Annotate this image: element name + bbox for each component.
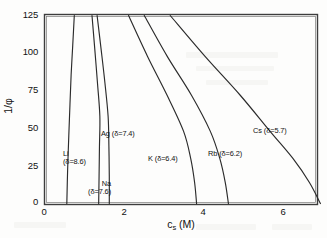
y-tick-75: 75 — [12, 84, 38, 95]
curve-label-cs: Cs (δ=5.7) — [253, 127, 287, 135]
data-curves — [67, 16, 321, 204]
curve-label-li: Li (δ=8.6) — [63, 150, 86, 166]
plot-frame — [45, 15, 318, 205]
x-tick-0: 0 — [34, 206, 54, 217]
curve-label-li-delta: (δ=8.6) — [63, 158, 86, 166]
curve-rb — [144, 16, 228, 204]
y-axis-label: 1/φ — [2, 85, 14, 127]
curve-label-cs-text: Cs (δ=5.7) — [253, 126, 287, 135]
x-axis-label-unit: (M) — [179, 218, 195, 230]
curve-cs — [170, 16, 320, 204]
x-tick-2: 2 — [114, 206, 134, 217]
curve-label-ag-text: Ag (δ=7.4) — [101, 129, 135, 138]
figure-container: 125 100 75 50 25 0 0 2 4 6 1/φ cs (M) Li… — [0, 0, 327, 238]
curve-label-na-delta: (δ=7.6) — [63, 188, 111, 196]
curve-label-ag: Ag (δ=7.4) — [101, 130, 135, 138]
curve-na — [92, 16, 100, 204]
curve-label-rb-text: Rb (δ=6.2) — [208, 149, 242, 158]
curve-label-na: Na (δ=7.6) — [63, 180, 111, 196]
y-tick-50: 50 — [12, 122, 38, 133]
y-axis-label-text: 1/φ — [2, 98, 14, 114]
x-tick-4: 4 — [193, 206, 213, 217]
x-axis-label-subscript: s — [172, 223, 176, 232]
curve-k — [129, 16, 197, 204]
curve-li — [67, 16, 74, 204]
y-tick-125: 125 — [12, 9, 38, 20]
y-tick-100: 100 — [12, 46, 38, 57]
x-axis-label: cs (M) — [44, 218, 318, 232]
curve-label-k: K (δ=6.4) — [148, 155, 178, 163]
x-tick-6: 6 — [273, 206, 293, 217]
y-tick-25: 25 — [12, 160, 38, 171]
plot-svg — [0, 0, 327, 238]
curve-label-k-text: K (δ=6.4) — [148, 154, 178, 163]
curve-label-rb: Rb (δ=6.2) — [208, 150, 242, 158]
